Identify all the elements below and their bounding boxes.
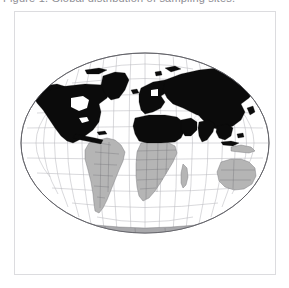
baltic-sea xyxy=(151,89,158,96)
world-map-figure-panel xyxy=(14,11,276,275)
region-svalbard xyxy=(155,71,162,76)
clipped-caption-text: Figure 1. Global distribution of samplin… xyxy=(3,0,235,5)
region-northern-africa xyxy=(133,115,185,143)
region-new-zealand xyxy=(261,180,269,202)
region-kamchatka xyxy=(251,84,265,100)
mollweide-world-map xyxy=(15,12,275,274)
clipped-caption-strip: Figure 1. Global distribution of samplin… xyxy=(0,0,289,7)
world-map-canvas xyxy=(15,12,275,274)
